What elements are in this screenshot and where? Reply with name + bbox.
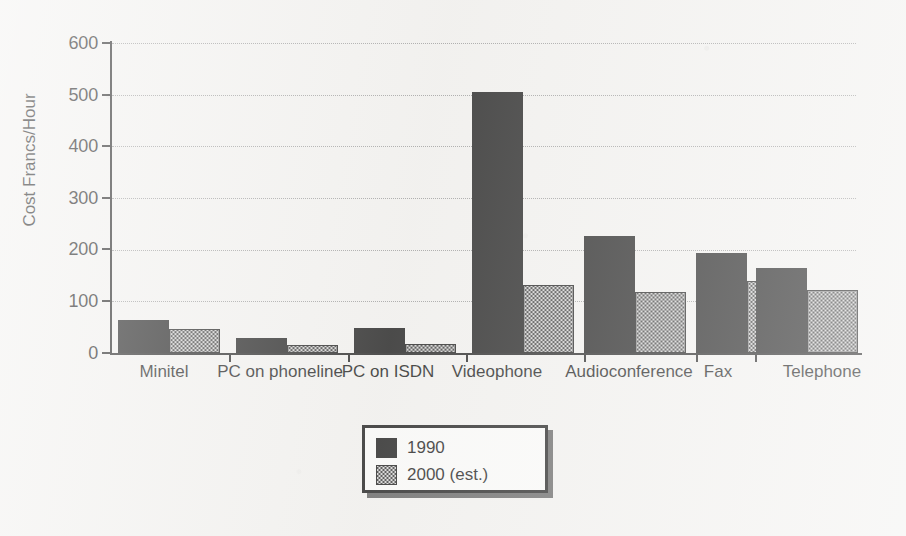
bar-pc-on-phoneline-1990[interactable] — [236, 338, 287, 353]
bar-videophone-1990[interactable] — [472, 92, 523, 353]
bar-pc-on-isdn-2000[interactable] — [405, 344, 456, 353]
bar-minitel-2000[interactable] — [169, 329, 220, 353]
bars-layer — [112, 43, 860, 353]
legend-entry-1990[interactable]: 1990 — [376, 435, 545, 460]
x-tick-label-telephone: Telephone — [762, 361, 882, 383]
legend-swatch-2000-icon — [376, 465, 397, 485]
x-axis-tick-labels: Minitel PC on phoneline PC on ISDN Video… — [0, 361, 906, 387]
y-axis-tick-labels: 600 500 400 300 200 100 0 — [30, 0, 98, 400]
bar-group-audioconference — [584, 43, 686, 353]
x-axis-line — [110, 353, 862, 355]
bar-group-pc-on-isdn — [354, 43, 456, 353]
chart-legend: 1990 2000 (est.) — [362, 425, 548, 493]
bar-chart-figure: Cost Francs/Hour 600 500 400 300 200 100… — [0, 0, 906, 536]
bar-videophone-2000[interactable] — [523, 285, 574, 353]
bar-pc-on-phoneline-2000[interactable] — [287, 345, 338, 353]
bar-telephone-2000[interactable] — [807, 290, 858, 353]
bar-group-telephone — [756, 43, 858, 353]
bar-group-videophone — [472, 43, 574, 353]
bar-audioconference-2000[interactable] — [635, 292, 686, 353]
y-tick-label-200: 200 — [38, 240, 98, 258]
bar-telephone-1990[interactable] — [756, 268, 807, 353]
legend-label-2000: 2000 (est.) — [407, 466, 488, 483]
y-tick-label-400: 400 — [38, 137, 98, 155]
bar-fax-1990[interactable] — [696, 253, 747, 353]
y-tick-label-300: 300 — [38, 189, 98, 207]
y-tick-label-100: 100 — [38, 292, 98, 310]
y-tick-label-500: 500 — [38, 86, 98, 104]
legend-label-1990: 1990 — [407, 439, 445, 456]
bar-group-minitel — [118, 43, 220, 353]
x-tick-label-videophone: Videophone — [434, 361, 560, 383]
bar-audioconference-1990[interactable] — [584, 236, 635, 353]
x-tick-label-fax: Fax — [676, 361, 760, 383]
y-tick-label-0: 0 — [38, 344, 98, 362]
bar-pc-on-isdn-1990[interactable] — [354, 328, 405, 353]
bar-minitel-1990[interactable] — [118, 320, 169, 353]
legend-entry-2000[interactable]: 2000 (est.) — [376, 462, 545, 487]
legend-swatch-1990-icon — [376, 438, 397, 458]
bar-group-pc-on-phoneline — [236, 43, 338, 353]
y-tick-label-600: 600 — [38, 34, 98, 52]
